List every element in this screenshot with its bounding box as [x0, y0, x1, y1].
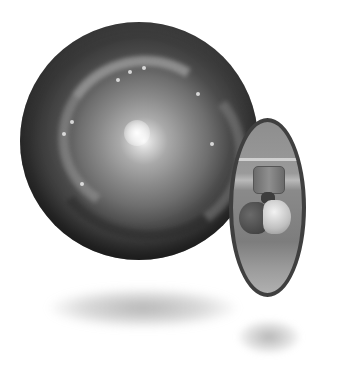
star: [210, 142, 214, 146]
star: [196, 92, 200, 96]
star: [116, 78, 120, 82]
telescope-portal-icon: [229, 118, 306, 297]
portal-shadow: [238, 320, 300, 354]
galaxy-sphere-icon: [20, 22, 258, 260]
illustration-scene: [0, 0, 361, 377]
sphere-shadow: [48, 288, 238, 328]
star: [142, 66, 146, 70]
star: [80, 182, 84, 186]
galaxy-core: [124, 120, 150, 146]
star: [128, 70, 132, 74]
star: [62, 132, 66, 136]
star: [70, 120, 74, 124]
telescope-base: [263, 200, 291, 234]
galaxy-arm: [35, 49, 258, 253]
telescope-tube: [253, 166, 285, 194]
portal-sheen: [233, 158, 302, 161]
